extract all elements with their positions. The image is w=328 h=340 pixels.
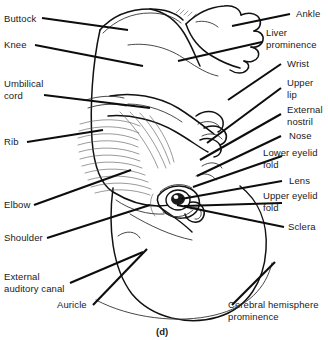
leader-knee (35, 45, 143, 66)
leader-auricle (93, 249, 147, 305)
label-knee: Knee (4, 39, 27, 51)
label-shoulder: Shoulder (4, 232, 43, 244)
label-external-nostril: External nostril (287, 104, 323, 127)
figure-container: Buttock Knee Umbilical cord Rib Elbow Sh… (0, 0, 328, 340)
leader-elbow (34, 170, 131, 205)
leader-lines-left (27, 18, 150, 305)
drawing-body (78, 6, 272, 321)
label-nose: Nose (289, 130, 312, 142)
leader-buttock (42, 18, 128, 30)
label-lens: Lens (289, 175, 310, 187)
label-buttock: Buttock (4, 13, 36, 25)
label-external-auditory-canal: External auditory canal (4, 271, 65, 294)
figure-caption: (d) (156, 326, 168, 337)
label-cerebral-hemisphere-prominence: Cerebral hemisphere prominence (228, 299, 319, 322)
label-upper-lip: Upper lip (287, 77, 313, 100)
label-auricle: Auricle (57, 299, 87, 311)
label-lower-eyelid-fold: Lower eyelid fold (263, 147, 318, 170)
label-upper-eyelid-fold: Upper eyelid fold (263, 190, 318, 213)
label-elbow: Elbow (4, 199, 30, 211)
label-rib: Rib (4, 136, 19, 148)
leader-external-auditory-canal (70, 252, 143, 283)
label-umbilical-cord: Umbilical cord (4, 78, 43, 101)
label-liver-prominence: Liver prominence (266, 27, 317, 50)
label-wrist: Wrist (287, 58, 309, 70)
label-sclera: Sclera (288, 221, 316, 233)
rib-hatching (78, 120, 151, 195)
label-ankle: Ankle (296, 8, 320, 20)
